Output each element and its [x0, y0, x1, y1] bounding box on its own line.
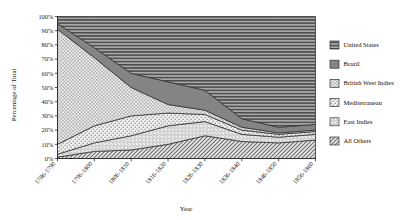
legend-swatch-dots	[330, 99, 339, 107]
x-tick-label: 1806-1810	[107, 160, 131, 185]
y-axis-title: Percentage of Total	[10, 69, 17, 122]
legend-swatch-horizontal-lines	[330, 41, 339, 49]
x-tick-label: 1846-1850	[254, 160, 278, 185]
y-tick-label: 50%	[42, 84, 54, 91]
legend-label: Brazil	[344, 60, 360, 67]
y-tick-label: 80%	[42, 41, 54, 48]
stacked-area-chart: 0%10%20%30%40%50%60%70%80%90%100% 1786-1…	[0, 0, 414, 220]
chart-canvas: 0%10%20%30%40%50%60%70%80%90%100% 1786-1…	[0, 0, 414, 220]
chart-legend: United StatesBrazilBritish West IndiesMe…	[330, 41, 394, 145]
y-tick-label: 20%	[42, 126, 54, 133]
legend-label: British West Indies	[344, 79, 395, 86]
x-tick-label: 1836-1840	[217, 160, 241, 185]
y-tick-label: 30%	[42, 112, 54, 119]
x-tick-label: 1856-1860	[291, 160, 315, 185]
y-tick-label: 40%	[42, 98, 54, 105]
plot-area	[58, 17, 316, 159]
y-tick-label: 10%	[42, 141, 54, 148]
legend-swatch-cross-hatch	[330, 79, 339, 87]
legend-swatch-diagonal-hatch	[330, 137, 339, 145]
legend-label: Mediterranean	[344, 99, 383, 106]
x-axis-title: Year	[180, 205, 193, 212]
x-tick-label: 1796-1800	[70, 160, 94, 185]
legend-label: East Indies	[344, 118, 374, 125]
x-tick-label: 1816-1820	[144, 160, 168, 185]
x-tick-label: 1826-1830	[180, 160, 204, 185]
y-tick-label: 60%	[42, 70, 54, 77]
legend-label: United States	[344, 41, 380, 48]
y-axis-ticks: 0%10%20%30%40%50%60%70%80%90%100%	[38, 13, 57, 162]
legend-swatch-solid-gray	[330, 60, 339, 68]
legend-swatch-diagonal-thin	[330, 118, 339, 126]
y-tick-label: 100%	[38, 13, 54, 20]
x-axis-ticks: 1786-17901796-18001806-18101816-18201826…	[33, 159, 315, 186]
y-tick-label: 70%	[42, 55, 54, 62]
y-tick-label: 0%	[45, 155, 54, 162]
y-tick-label: 90%	[42, 27, 54, 34]
x-tick-label: 1786-1790	[33, 160, 57, 185]
legend-label: All Others	[344, 137, 372, 144]
